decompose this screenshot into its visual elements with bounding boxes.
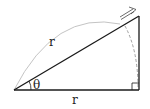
triangle-diagram: r r θ <box>0 0 150 109</box>
angle-label: θ <box>33 78 40 92</box>
base-label: r <box>72 93 78 107</box>
angle-arc <box>29 81 31 90</box>
hypotenuse-label: r <box>49 35 55 49</box>
double-arrow-icon <box>120 7 136 20</box>
rotation-arc <box>14 22 120 90</box>
dashed-arc <box>125 26 138 88</box>
